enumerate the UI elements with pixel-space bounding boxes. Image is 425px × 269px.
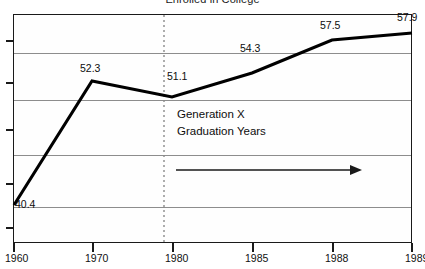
point-label-1970: 52.3 [80, 62, 100, 74]
x-axis-label-1960: 1960 [5, 252, 28, 264]
x-axis-tick [252, 243, 254, 252]
gridline [14, 100, 411, 101]
x-axis-tick [13, 243, 15, 252]
x-axis-label-1985: 1985 [245, 252, 268, 264]
x-axis-tick [332, 243, 334, 252]
generation-x-annotation-line1: Generation X [177, 106, 266, 123]
point-label-1989: 57.9 [397, 11, 417, 23]
x-axis-label-1988: 1988 [325, 252, 348, 264]
y-axis-tick [6, 183, 14, 185]
y-axis-tick [6, 227, 14, 229]
gridline [14, 155, 411, 156]
x-axis-tick [92, 243, 94, 252]
chart-root: Enrolled in College 1960 1970 1980 1985 … [0, 0, 425, 269]
y-axis-tick [6, 129, 14, 131]
generation-x-annotation: Generation X Graduation Years [177, 106, 266, 140]
x-axis-tick [172, 243, 174, 252]
gridline [14, 207, 411, 208]
x-axis-label-1980: 1980 [165, 252, 188, 264]
y-axis-tick [6, 82, 14, 84]
chart-title: Enrolled in College [0, 0, 425, 5]
point-label-1980: 51.1 [167, 70, 187, 82]
x-axis-tick [411, 243, 413, 252]
point-label-1988: 57.5 [320, 19, 340, 31]
generation-x-annotation-line2: Graduation Years [177, 123, 266, 140]
point-label-1985: 54.3 [240, 42, 260, 54]
gridline [14, 53, 411, 54]
x-axis-label-1989: 1989 [405, 252, 425, 264]
y-axis-tick [6, 40, 14, 42]
x-axis-label-1970: 1970 [85, 252, 108, 264]
point-label-1960: 40.4 [15, 198, 35, 210]
